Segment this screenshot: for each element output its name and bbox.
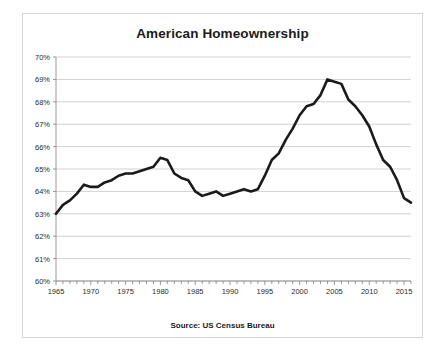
y-axis-tick-label: 70% <box>24 53 50 62</box>
x-axis-tick-label: 1985 <box>178 287 212 296</box>
x-axis-tick-label: 2000 <box>283 287 317 296</box>
x-axis-tick-label: 1970 <box>74 287 108 296</box>
y-axis-ticks <box>53 57 56 281</box>
y-axis-tick-label: 62% <box>24 232 50 241</box>
y-axis-tick-label: 67% <box>24 120 50 129</box>
x-axis-tick-label: 1975 <box>109 287 143 296</box>
y-axis-tick-label: 65% <box>24 165 50 174</box>
chart-figure: American Homeownership 70%69%68%67%66%65… <box>0 0 444 352</box>
x-axis-tick-label: 2010 <box>352 287 386 296</box>
source-annotation: Source: US Census Bureau <box>23 321 422 330</box>
x-axis-tick-label: 2005 <box>317 287 351 296</box>
y-axis-tick-label: 61% <box>24 254 50 263</box>
x-axis-tick-label: 1990 <box>213 287 247 296</box>
y-axis-tick-label: 69% <box>24 75 50 84</box>
x-axis-tick-label: 1965 <box>39 287 73 296</box>
y-axis-tick-label: 63% <box>24 209 50 218</box>
chart-frame: American Homeownership 70%69%68%67%66%65… <box>22 13 423 338</box>
x-axis-ticks <box>56 281 411 285</box>
y-axis-tick-label: 66% <box>24 142 50 151</box>
x-axis-tick-label: 2015 <box>387 287 421 296</box>
x-axis-tick-label: 1995 <box>248 287 282 296</box>
y-axis-tick-label: 64% <box>24 187 50 196</box>
x-axis-tick-label: 1980 <box>143 287 177 296</box>
y-axis-tick-label: 68% <box>24 97 50 106</box>
y-axis-tick-label: 60% <box>24 277 50 286</box>
gridlines <box>56 57 411 281</box>
